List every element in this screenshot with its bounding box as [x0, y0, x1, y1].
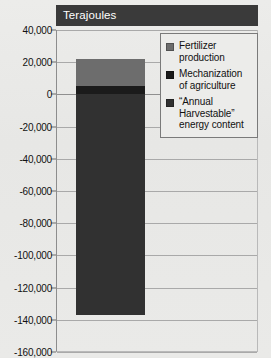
y-axis-label: -160,000 — [0, 347, 52, 358]
legend-swatch-icon — [166, 99, 174, 107]
gridline — [57, 352, 257, 353]
legend-item[interactable]: Fertilizer production — [166, 40, 252, 63]
chart-legend: Fertilizer productionMechanization of ag… — [160, 33, 258, 138]
bar-segment[interactable] — [76, 86, 145, 94]
legend-item-label: Mechanization of agriculture — [179, 68, 252, 91]
bar-segment[interactable] — [76, 94, 145, 315]
y-axis-label: -120,000 — [0, 282, 52, 293]
y-axis-label: 40,000 — [0, 25, 52, 36]
page-title: Terajoules — [63, 9, 116, 21]
legend-swatch-icon — [166, 71, 174, 79]
y-axis-label: -140,000 — [0, 314, 52, 325]
bar-segment[interactable] — [76, 59, 145, 86]
y-axis-label: -100,000 — [0, 250, 52, 261]
y-axis-label: -60,000 — [0, 186, 52, 197]
legend-item-label: Fertilizer production — [179, 40, 252, 63]
y-axis-label: 0 — [0, 89, 52, 100]
legend-swatch-icon — [166, 43, 174, 51]
y-axis-label: -80,000 — [0, 218, 52, 229]
chart-title-bar: Terajoules — [56, 5, 258, 26]
legend-item-label: “Annual Harvestable” energy content — [179, 96, 252, 131]
gridline — [57, 320, 257, 321]
y-axis-label: -40,000 — [0, 153, 52, 164]
y-axis-label: -20,000 — [0, 121, 52, 132]
gridline — [57, 30, 257, 31]
legend-item[interactable]: “Annual Harvestable” energy content — [166, 96, 252, 131]
legend-item[interactable]: Mechanization of agriculture — [166, 68, 252, 91]
y-axis-label: 20,000 — [0, 57, 52, 68]
